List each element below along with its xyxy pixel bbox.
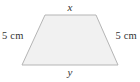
trapezoid-figure: x y 5 cm 5 cm bbox=[0, 0, 140, 82]
right-side-label: 5 cm bbox=[115, 31, 137, 42]
left-side-label: 5 cm bbox=[2, 31, 24, 42]
trapezoid-polygon bbox=[22, 15, 118, 65]
bottom-side-label: y bbox=[0, 67, 140, 78]
top-side-label: x bbox=[0, 2, 140, 13]
